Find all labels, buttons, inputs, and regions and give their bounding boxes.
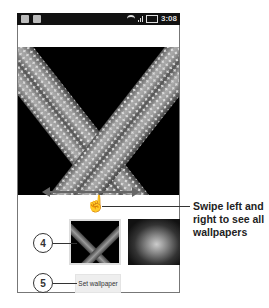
callout-badge-5: 5 bbox=[33, 273, 53, 293]
signal-icon bbox=[138, 15, 143, 22]
callout-line-5 bbox=[53, 283, 77, 284]
callout-line-4 bbox=[53, 243, 77, 244]
wallpaper-thumbnail-crossed-bars[interactable] bbox=[69, 219, 121, 265]
wallpaper-thumbnail-nebula[interactable] bbox=[128, 219, 180, 265]
wifi-icon bbox=[127, 15, 135, 23]
callout-line-swipe bbox=[102, 206, 190, 207]
notification-icon bbox=[21, 15, 29, 23]
status-bar: 3:08 bbox=[17, 13, 180, 25]
battery-icon bbox=[146, 15, 158, 23]
swipe-hand-icon: ☝ bbox=[86, 196, 106, 212]
swipe-arrow-icon bbox=[48, 191, 134, 193]
status-time: 3:08 bbox=[161, 14, 177, 23]
callout-badge-4: 4 bbox=[33, 233, 53, 253]
set-wallpaper-button[interactable]: Set wallpaper bbox=[75, 274, 121, 293]
usb-icon bbox=[33, 15, 41, 23]
swipe-callout-text: Swipe left and right to see all wallpape… bbox=[193, 200, 269, 239]
wallpaper-preview[interactable] bbox=[18, 47, 179, 195]
